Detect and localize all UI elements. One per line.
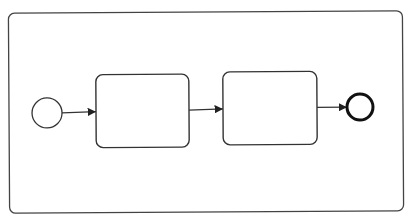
start-event[interactable] (32, 98, 62, 128)
sequence-flow-2[interactable] (189, 109, 223, 110)
process-pool[interactable] (8, 11, 403, 213)
task-2[interactable] (223, 71, 317, 145)
sequence-flow-1[interactable] (62, 112, 96, 113)
bpmn-diagram (0, 0, 411, 215)
bpmn-canvas (0, 0, 411, 215)
end-event[interactable] (347, 94, 373, 120)
task-1[interactable] (96, 74, 189, 148)
